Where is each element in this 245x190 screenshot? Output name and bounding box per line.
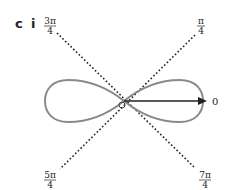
label-7pi4: 7π 4 [199,170,211,190]
label-pi4: π 4 [197,16,205,36]
label-3pi4: 3π 4 [44,16,56,36]
panel-letter: c [15,16,23,31]
label-5pi4: 5π 4 [44,170,56,190]
svg-text:π: π [198,16,204,26]
svg-text:7π: 7π [199,170,211,180]
axis-label: 0 [212,96,218,107]
line-pi4-5pi4 [60,35,195,169]
svg-text:4: 4 [198,26,204,36]
svg-text:5π: 5π [44,170,56,180]
svg-text:4: 4 [47,26,53,36]
svg-text:3π: 3π [44,16,56,26]
panel-sublabel: i [31,16,35,31]
svg-text:4: 4 [202,180,208,190]
polar-diagram: c i 0 3π 4 π 4 5π 4 7π 4 [0,0,245,190]
svg-text:4: 4 [47,180,53,190]
